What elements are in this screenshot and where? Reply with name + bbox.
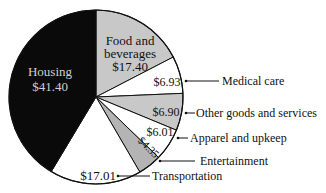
medical-value: $6.93 [154,75,181,89]
housing-label: Housing [28,64,73,79]
housing-value: $41.40 [32,79,68,94]
other-name: Other goods and services [196,106,317,120]
entertainment-name: Entertainment [200,154,269,168]
food-value: $17.40 [112,59,148,74]
apparel-name: Apparel and upkeep [190,131,287,145]
transportation-value: $17.01 [80,168,116,183]
transportation-name: Transportation [152,169,222,183]
medical-name: Medical care [222,74,284,88]
pie-chart: Housing $41.40 Food and beverages $17.40… [0,0,326,193]
pie-slices [9,10,183,184]
apparel-value: $6.01 [147,125,174,139]
other-value: $6.90 [153,105,180,119]
